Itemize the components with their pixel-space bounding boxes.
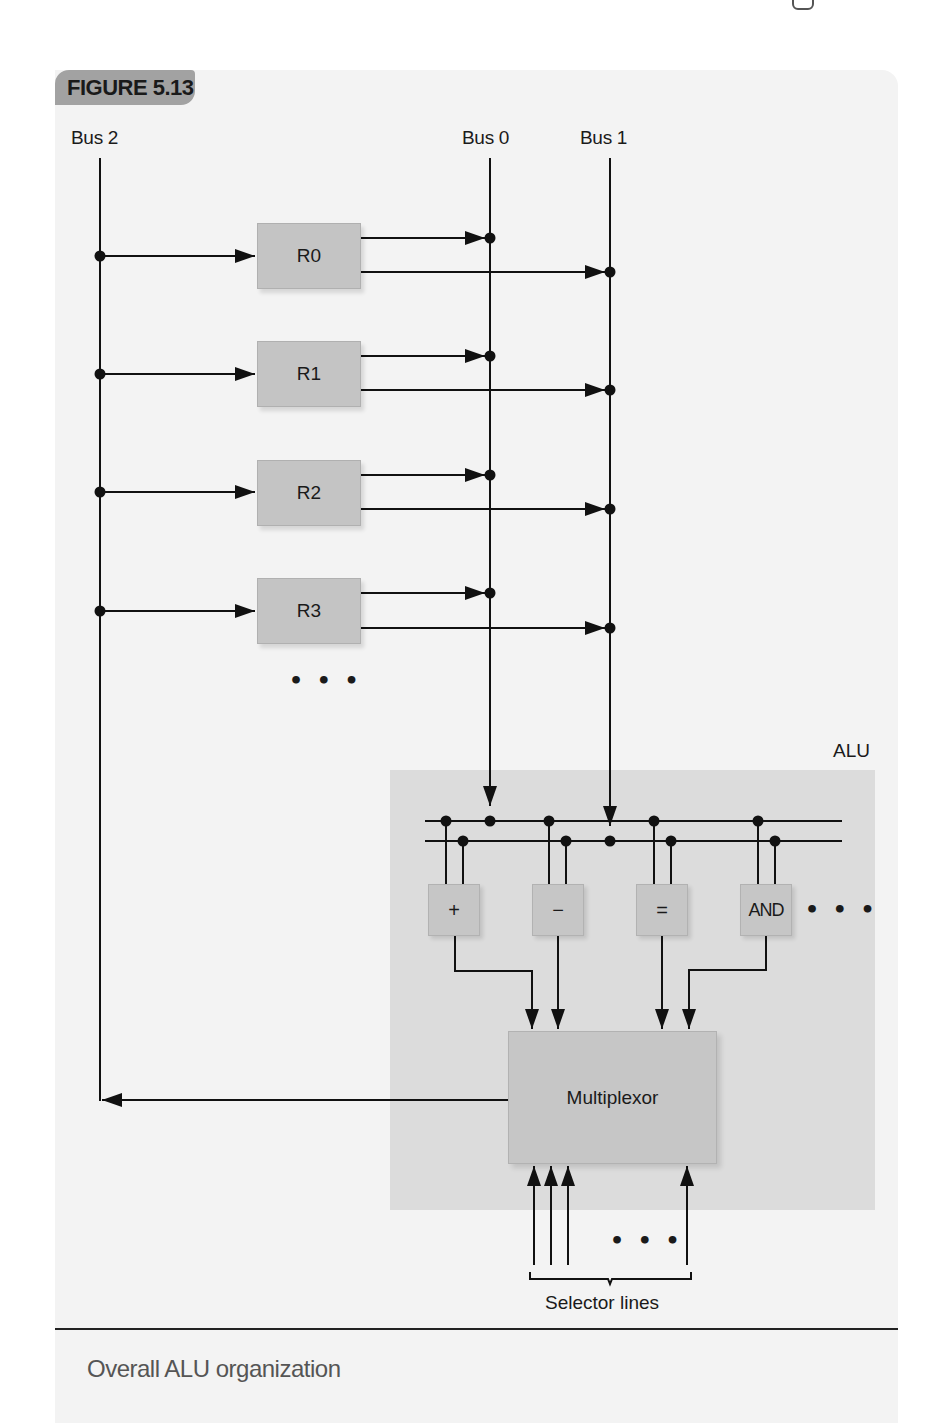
more-registers-ellipsis: • • • [289, 668, 362, 693]
bus-2-label: Bus 2 [71, 127, 118, 149]
bus-1-label: Bus 1 [580, 127, 627, 149]
selector-lines-label: Selector lines [545, 1292, 659, 1314]
caption-divider [55, 1328, 898, 1330]
page-corner-icon [792, 0, 814, 10]
register-label: R0 [297, 245, 321, 267]
figure-caption: Overall ALU organization [87, 1355, 340, 1383]
multiplexor-label: Multiplexor [567, 1087, 659, 1109]
more-selector-lines-ellipsis: • • • [610, 1228, 683, 1253]
op-add-box: + [428, 884, 480, 936]
register-label: R3 [297, 600, 321, 622]
figure-tag: FIGURE 5.13 [55, 70, 195, 105]
register-r3: R3 [257, 578, 361, 644]
op-label: − [552, 899, 564, 922]
alu-label: ALU [833, 740, 870, 762]
register-r0: R0 [257, 223, 361, 289]
register-label: R2 [297, 482, 321, 504]
op-and-box: AND [740, 884, 792, 936]
more-operations-ellipsis: • • • [805, 897, 878, 922]
bus-0-label: Bus 0 [462, 127, 509, 149]
op-label: AND [748, 900, 783, 921]
register-r2: R2 [257, 460, 361, 526]
register-r1: R1 [257, 341, 361, 407]
multiplexor-box: Multiplexor [508, 1031, 717, 1164]
op-subtract-box: − [532, 884, 584, 936]
figure-panel [55, 70, 898, 1423]
op-label: = [656, 899, 668, 922]
op-label: + [448, 899, 460, 922]
register-label: R1 [297, 363, 321, 385]
op-equal-box: = [636, 884, 688, 936]
